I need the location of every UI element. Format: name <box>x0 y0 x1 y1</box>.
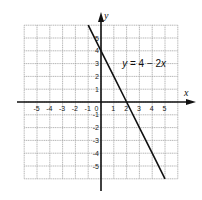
y-tick-label: -2 <box>93 124 99 131</box>
x-tick-label: -2 <box>72 105 78 112</box>
x-tick-label: -4 <box>46 105 52 112</box>
x-tick-label: 5 <box>163 105 167 112</box>
y-tick-label: -4 <box>93 150 99 157</box>
y-axis-label: y <box>103 10 109 21</box>
x-tick-label: 4 <box>150 105 154 112</box>
x-tick-label: -3 <box>59 105 65 112</box>
x-axis-arrow-icon <box>186 99 196 105</box>
y-tick-label: 3 <box>95 60 99 67</box>
x-tick-label: 1 <box>111 105 115 112</box>
y-tick-label: 1 <box>95 86 99 93</box>
y-tick-label: -5 <box>93 163 99 170</box>
x-axis-label: x <box>183 87 189 98</box>
equation-label: y = 4 − 2x <box>121 58 167 69</box>
x-tick-label: 3 <box>137 105 141 112</box>
equation-body: = 4 − 2 <box>127 58 161 69</box>
x-tick-label: -1 <box>85 105 91 112</box>
x-tick-label: -5 <box>33 105 39 112</box>
equation-x: x <box>160 58 167 69</box>
x-tick-label: 2 <box>124 105 128 112</box>
y-tick-label: 2 <box>95 73 99 80</box>
coordinate-plane: x y -5-4-3-2-101234554321-1-2-3-4-5 y = … <box>0 0 202 200</box>
y-tick-label: 4 <box>95 47 99 54</box>
y-tick-label: -3 <box>93 137 99 144</box>
y-tick-label: -1 <box>93 111 99 118</box>
axes: x y <box>17 10 196 191</box>
